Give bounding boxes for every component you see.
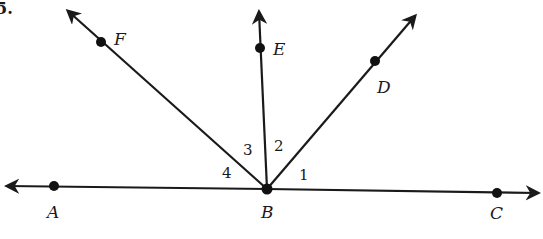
point-f xyxy=(96,37,106,47)
angle-label-4: 4 xyxy=(222,164,232,182)
ray-bf xyxy=(68,11,267,189)
label-f: F xyxy=(113,29,127,49)
ray-be xyxy=(259,12,267,189)
label-b: B xyxy=(260,202,274,222)
angle-label-2: 2 xyxy=(274,137,284,155)
label-d: D xyxy=(376,77,391,97)
point-d xyxy=(370,56,380,66)
label-e: E xyxy=(272,39,286,59)
point-b xyxy=(262,184,273,195)
angle-label-1: 1 xyxy=(299,166,309,184)
point-c xyxy=(492,188,502,198)
point-e xyxy=(255,43,265,53)
line-ac xyxy=(7,186,267,189)
point-a xyxy=(49,181,59,191)
angle-label-3: 3 xyxy=(243,141,253,159)
label-a: A xyxy=(45,202,59,222)
label-c: C xyxy=(490,203,503,223)
geometry-diagram: 5. A B C D E F 1 2 3 4 xyxy=(0,0,543,239)
problem-number: 5. xyxy=(0,0,13,18)
ray-bd xyxy=(267,16,415,189)
